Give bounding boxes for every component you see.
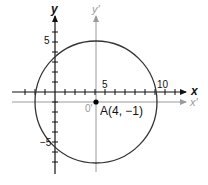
x-prime-axis-label: x'	[190, 96, 198, 108]
y-axis-label: y	[51, 2, 58, 16]
y-prime-axis-label: y'	[92, 3, 100, 15]
origin-prime-label: 0'	[85, 103, 92, 114]
main-axes	[12, 16, 186, 174]
point-a	[93, 99, 98, 104]
x-tick-label-10: 10	[157, 79, 168, 90]
x-tick-label-5: 5	[102, 79, 108, 90]
coordinate-plane	[0, 0, 208, 185]
y-tick-label-5: 5	[44, 35, 50, 46]
point-a-label: A(4, −1)	[100, 104, 143, 118]
prime-axes	[12, 16, 186, 172]
y-tick-label-neg5: −5	[40, 137, 51, 148]
